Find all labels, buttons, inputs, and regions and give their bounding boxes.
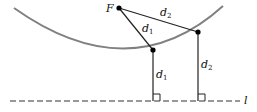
focus-point: [116, 5, 121, 10]
focus-label: F: [105, 2, 114, 15]
directrix-label: l: [244, 94, 248, 107]
parabola-diagram: F d2 d1 d1 d2 l: [0, 0, 257, 112]
parabola-curve: [14, 6, 223, 49]
right-angle-mark-2: [198, 94, 205, 101]
focus-to-p2-segment: [119, 8, 198, 32]
parabola-point-2: [195, 29, 200, 34]
right-angle-mark-1: [153, 94, 160, 101]
d2-slant-label: d2: [160, 6, 172, 20]
d1-vertical-label: d1: [156, 68, 168, 82]
d1-slant-label: d1: [142, 22, 154, 36]
parabola-point-1: [150, 47, 155, 52]
d2-vertical-label: d2: [201, 58, 213, 72]
